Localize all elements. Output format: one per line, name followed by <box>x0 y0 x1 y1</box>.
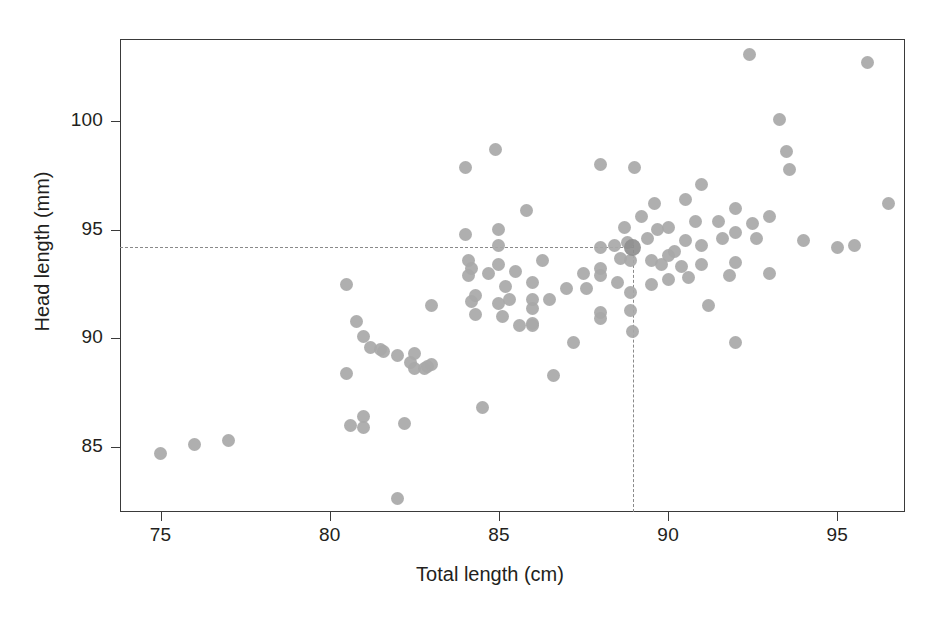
x-axis-title-text: Total length (cm) <box>416 563 564 585</box>
y-axis-title-text: Head length (mm) <box>31 171 53 331</box>
x-tick-mark <box>330 512 331 521</box>
data-point <box>154 447 167 460</box>
data-point <box>577 267 590 280</box>
data-point <box>662 273 675 286</box>
data-point <box>797 234 810 247</box>
data-point <box>567 336 580 349</box>
data-point <box>695 178 708 191</box>
data-point <box>729 256 742 269</box>
data-point <box>499 280 512 293</box>
data-point <box>459 161 472 174</box>
data-point <box>635 210 648 223</box>
data-point <box>496 310 509 323</box>
y-axis-title: Head length (mm) <box>31 102 54 402</box>
reference-line-vertical <box>633 245 634 512</box>
data-point <box>350 315 363 328</box>
data-point <box>689 215 702 228</box>
data-point <box>594 269 607 282</box>
data-point <box>624 286 637 299</box>
data-point <box>628 161 641 174</box>
data-point <box>340 278 353 291</box>
data-point <box>594 158 607 171</box>
data-point <box>398 417 411 430</box>
data-point <box>702 299 715 312</box>
data-point <box>594 312 607 325</box>
data-point <box>679 193 692 206</box>
y-tick-mark <box>111 230 120 231</box>
data-point <box>526 319 539 332</box>
data-point <box>729 202 742 215</box>
data-point <box>377 345 390 358</box>
data-point <box>489 143 502 156</box>
data-point <box>503 293 516 306</box>
data-point <box>547 369 560 382</box>
plot-data-area <box>120 39 905 512</box>
data-point <box>648 197 661 210</box>
data-point <box>509 265 522 278</box>
data-point <box>391 349 404 362</box>
data-point <box>357 421 370 434</box>
data-point <box>222 434 235 447</box>
data-point <box>476 401 489 414</box>
data-point <box>492 258 505 271</box>
data-point <box>682 271 695 284</box>
scatter-plot-figure: 7580859095 859095100 Total length (cm) H… <box>0 0 930 625</box>
data-point <box>520 204 533 217</box>
data-point <box>594 241 607 254</box>
data-point <box>611 276 624 289</box>
data-point <box>344 419 357 432</box>
data-point <box>626 325 639 338</box>
data-point <box>340 367 353 380</box>
data-point <box>679 234 692 247</box>
data-point <box>746 217 759 230</box>
data-point <box>695 258 708 271</box>
data-point <box>780 145 793 158</box>
data-point <box>716 232 729 245</box>
x-tick-mark <box>837 512 838 521</box>
data-point <box>763 210 776 223</box>
data-point <box>188 438 201 451</box>
y-tick-label: 85 <box>43 435 103 457</box>
x-tick-label: 85 <box>464 524 534 546</box>
x-tick-label: 75 <box>126 524 196 546</box>
x-tick-mark <box>668 512 669 521</box>
y-tick-mark <box>111 338 120 339</box>
data-point <box>492 223 505 236</box>
data-point <box>469 308 482 321</box>
x-tick-label: 95 <box>802 524 872 546</box>
data-point <box>425 299 438 312</box>
data-point <box>408 347 421 360</box>
data-point <box>763 267 776 280</box>
data-point <box>783 163 796 176</box>
data-point <box>618 221 631 234</box>
data-point <box>750 232 763 245</box>
x-tick-label: 80 <box>295 524 365 546</box>
data-point <box>536 254 549 267</box>
data-point <box>469 289 482 302</box>
data-point <box>723 269 736 282</box>
data-point <box>743 48 756 61</box>
highlighted-data-point <box>624 239 641 256</box>
data-point <box>668 245 681 258</box>
data-point <box>773 113 786 126</box>
data-point <box>624 304 637 317</box>
data-point <box>526 276 539 289</box>
data-point <box>465 262 478 275</box>
data-point <box>695 239 708 252</box>
x-tick-label: 90 <box>633 524 703 546</box>
data-point <box>831 241 844 254</box>
data-point <box>662 221 675 234</box>
data-point <box>513 319 526 332</box>
data-point <box>492 239 505 252</box>
data-point <box>645 278 658 291</box>
data-point <box>729 336 742 349</box>
data-point <box>848 239 861 252</box>
data-point <box>459 228 472 241</box>
data-point <box>861 56 874 69</box>
x-axis-title: Total length (cm) <box>0 563 930 586</box>
y-tick-mark <box>111 447 120 448</box>
data-point <box>543 293 556 306</box>
data-point <box>580 282 593 295</box>
data-point <box>712 215 725 228</box>
y-tick-mark <box>111 121 120 122</box>
